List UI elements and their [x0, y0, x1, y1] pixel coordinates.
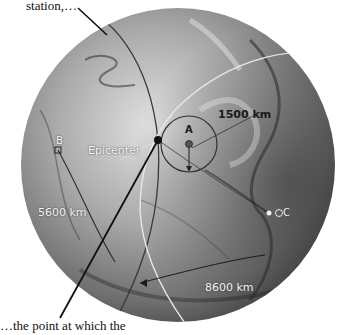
station-c-label: C: [283, 207, 290, 218]
station-a-marker: [186, 141, 193, 148]
caption-top: station,…: [26, 0, 77, 14]
globe-figure: [0, 0, 337, 335]
caption-bottom: …the point at which the: [0, 318, 126, 334]
seismic-triangulation-diagram: station,… …the point at which the 1500 k…: [0, 0, 337, 335]
epicenter-label: Epicenter: [88, 144, 140, 157]
distance-label-a: 1500 km: [218, 108, 271, 121]
station-a-label: A: [185, 124, 193, 135]
station-c-marker: [267, 211, 272, 216]
top-callout-line: [78, 8, 107, 35]
distance-label-b: 5600 km: [38, 206, 87, 219]
terrain-texture: [21, 5, 335, 330]
distance-label-c: 8600 km: [205, 281, 254, 294]
station-b-label: B: [56, 135, 63, 146]
